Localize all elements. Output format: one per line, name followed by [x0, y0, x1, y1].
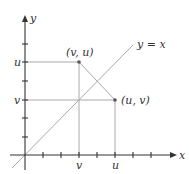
- x-axis-label: x: [179, 149, 186, 162]
- reflection-diagram: x y y = x (v, u) (u, v) v u u v: [0, 0, 189, 174]
- y-tick-label-v: v: [14, 94, 21, 107]
- y-axis-arrow-icon: [22, 15, 28, 22]
- x-axis-arrow-icon: [170, 152, 177, 158]
- point-u-v: [113, 98, 117, 102]
- point-label-u-v: (u, v): [121, 94, 150, 107]
- point-v-u: [77, 60, 81, 64]
- point-label-v-u: (v, u): [66, 46, 94, 59]
- x-tick-label-u: u: [112, 159, 119, 172]
- y-tick-label-u: u: [14, 56, 21, 69]
- y-axis-label: y: [29, 12, 37, 25]
- x-tick-label-v: v: [76, 159, 83, 172]
- line-label: y = x: [136, 38, 166, 51]
